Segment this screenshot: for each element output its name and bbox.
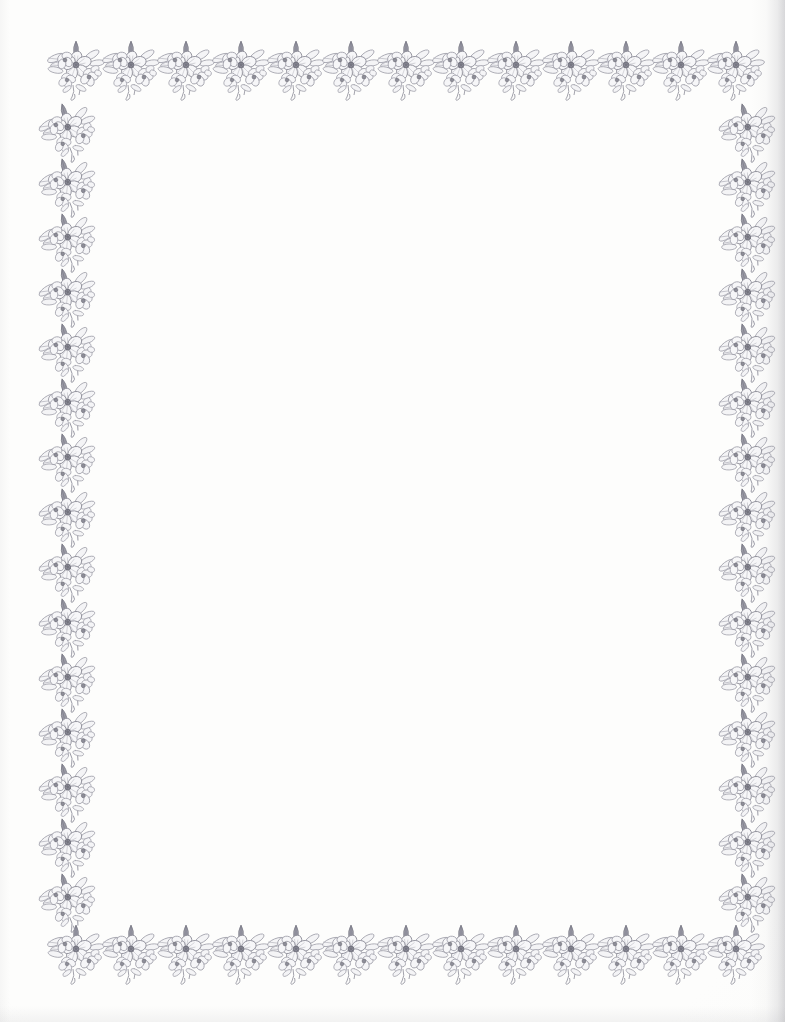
border-motif-bottom-11 bbox=[650, 922, 712, 986]
border-motif-bottom-4 bbox=[265, 922, 327, 986]
border-motif-bottom-5 bbox=[320, 922, 382, 986]
border-motif-bottom-6 bbox=[375, 922, 437, 986]
border-motif-top-0 bbox=[45, 38, 107, 102]
border-motif-left-14 bbox=[38, 870, 100, 934]
border-motif-bottom-9 bbox=[540, 922, 602, 986]
border-motif-bottom-8 bbox=[485, 922, 547, 986]
border-motif-top-4 bbox=[265, 38, 327, 102]
border-motif-top-12 bbox=[705, 38, 767, 102]
border-motif-bottom-2 bbox=[155, 922, 217, 986]
stationery-page bbox=[0, 0, 785, 1022]
border-motif-top-7 bbox=[430, 38, 492, 102]
border-motif-top-6 bbox=[375, 38, 437, 102]
border-motif-bottom-10 bbox=[595, 922, 657, 986]
border-motif-top-9 bbox=[540, 38, 602, 102]
border-motif-top-3 bbox=[210, 38, 272, 102]
border-motif-bottom-3 bbox=[210, 922, 272, 986]
writing-area[interactable] bbox=[110, 105, 710, 920]
border-motif-top-2 bbox=[155, 38, 217, 102]
border-motif-top-1 bbox=[100, 38, 162, 102]
border-motif-bottom-7 bbox=[430, 922, 492, 986]
border-motif-top-11 bbox=[650, 38, 712, 102]
border-motif-top-5 bbox=[320, 38, 382, 102]
border-motif-bottom-1 bbox=[100, 922, 162, 986]
border-motif-top-10 bbox=[595, 38, 657, 102]
border-motif-right-14 bbox=[718, 870, 780, 934]
border-motif-top-8 bbox=[485, 38, 547, 102]
